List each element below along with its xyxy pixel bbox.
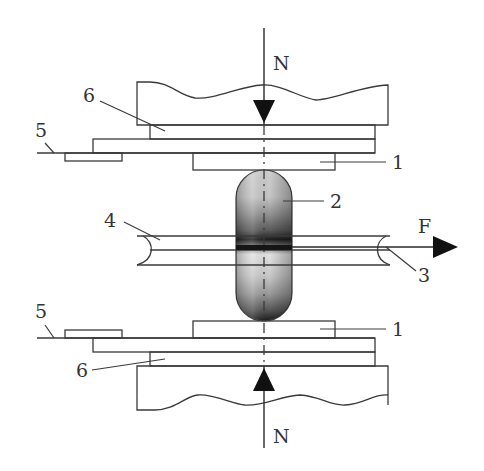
- label-plate-bottom: 6: [76, 359, 88, 381]
- tube-left-end: [137, 236, 151, 265]
- top-small-rect: [65, 153, 122, 161]
- top-plate-upper: [93, 139, 375, 153]
- arrow-up-icon: [253, 368, 275, 391]
- force-top-arrow: [253, 28, 275, 125]
- bottom-plate-upper: [93, 338, 375, 352]
- diagram-canvas: N 6 5 1 2 4 F 3 5 1 6 N: [0, 0, 484, 471]
- top-plate-6: [150, 125, 375, 139]
- force-pull-arrow: [292, 236, 458, 258]
- label-force-bottom: N: [273, 425, 290, 447]
- label-plate-top: 6: [83, 84, 95, 106]
- arrow-down-icon: [253, 100, 275, 123]
- bottom-plate-6: [150, 352, 375, 366]
- label-capsule: 2: [330, 190, 342, 212]
- bottom-small-rect: [65, 330, 122, 338]
- bottom-assembly: [37, 321, 388, 410]
- label-force-top: N: [273, 52, 290, 74]
- label-force-pull: F: [418, 215, 431, 237]
- label-line-top: 5: [35, 119, 47, 141]
- label-pad-bottom: 1: [392, 318, 404, 340]
- label-pad-top: 1: [392, 151, 404, 173]
- label-tube-left: 4: [104, 209, 116, 231]
- arrow-right-icon: [433, 236, 458, 258]
- label-tube-right: 3: [418, 264, 430, 286]
- label-line-bottom: 5: [35, 300, 47, 322]
- force-bottom-arrow: [253, 366, 275, 448]
